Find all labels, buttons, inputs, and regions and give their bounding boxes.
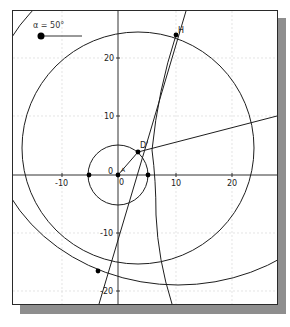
point-right[interactable] (146, 173, 151, 178)
label-D-prime: D' (140, 141, 148, 150)
vertical-arc[interactable] (152, 150, 172, 304)
axes (13, 11, 277, 304)
y-tick-neg10: -10 (100, 229, 113, 238)
origin-label-below: 0 (119, 178, 124, 187)
label-H: H (178, 26, 184, 35)
point-left[interactable] (87, 173, 92, 178)
point-lower[interactable] (96, 269, 101, 274)
x-tick-neg10: -10 (55, 179, 68, 188)
point-origin[interactable] (116, 173, 121, 178)
large-circle[interactable] (22, 32, 254, 264)
vertical-arc-upper[interactable] (152, 35, 176, 150)
ray-from-D[interactable] (138, 116, 277, 152)
y-tick-10: 10 (104, 112, 114, 121)
point-D-prime[interactable] (136, 150, 141, 155)
slider-handle[interactable] (38, 33, 45, 40)
grid (13, 11, 277, 304)
slider-alpha[interactable] (38, 33, 83, 40)
geometry-canvas[interactable]: H D' A 0 0 -10 10 20 20 10 -10 -20 (0, 0, 290, 327)
y-tick-neg20: -20 (100, 287, 113, 296)
slider-label: α = 50° (33, 21, 64, 30)
y-tick-20: 20 (104, 54, 114, 63)
x-tick-10: 10 (171, 179, 181, 188)
origin-label: 0 (108, 167, 113, 176)
x-tick-20: 20 (227, 179, 237, 188)
